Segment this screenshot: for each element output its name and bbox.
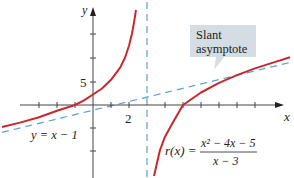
rational-function-graph: y x 2 5 Slant asymptote y = x − 1 r(x) =… <box>0 0 294 178</box>
y-tick-label-5: 5 <box>80 75 87 90</box>
y-axis-label: y <box>81 3 88 17</box>
formula-denominator: x − 3 <box>212 154 238 168</box>
callout-line-1: Slant <box>196 28 222 42</box>
function-formula: r(x) = x² − 4x − 5 x − 3 <box>165 136 257 168</box>
x-axis <box>20 102 284 108</box>
asymptote-equation-label: y = x − 1 <box>29 128 78 142</box>
function-curve-left-branch <box>2 10 136 127</box>
formula-numerator: x² − 4x − 5 <box>200 136 255 150</box>
function-name: r(x) = <box>165 143 197 158</box>
x-tick-label-2: 2 <box>125 111 132 126</box>
callout-line-2: asymptote <box>196 42 248 56</box>
x-axis-label: x <box>283 109 290 124</box>
slant-asymptote-line <box>2 62 290 132</box>
slant-asymptote-callout: Slant asymptote <box>190 25 256 70</box>
